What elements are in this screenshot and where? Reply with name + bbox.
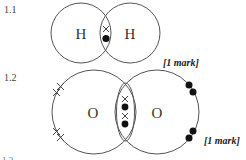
- dot-electron-icon: [122, 121, 129, 128]
- dot-electron-icon: [122, 104, 129, 111]
- o2-dot-cross-diagram: O O: [52, 70, 199, 154]
- cross-electron-icon: [122, 113, 128, 119]
- h2-dot-cross-diagram: H H: [51, 3, 160, 63]
- lone-dot-electrons-right: [186, 82, 197, 142]
- partial-next-question: 1.3 ... ... ... ...: [2, 155, 49, 160]
- diagrams: H H O O: [0, 0, 246, 160]
- dot-electron-icon: [102, 35, 109, 42]
- atom-symbol-o-left: O: [88, 105, 99, 121]
- atom-symbol-o-right: O: [152, 105, 163, 121]
- atom-symbol-h-left: H: [76, 26, 87, 42]
- cross-electron-icon: [122, 96, 128, 102]
- cross-electron-icon: [103, 26, 109, 32]
- atom-symbol-h-right: H: [125, 26, 136, 42]
- shared-pair-ring: [117, 83, 135, 141]
- lone-cross-electrons-left: [53, 83, 64, 141]
